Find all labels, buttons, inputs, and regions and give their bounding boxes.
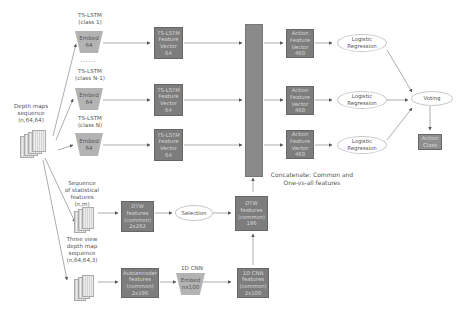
concatenate-label: Concatenate: Common and One-vs-all featu… xyxy=(262,171,362,187)
action-feature-vector-2: Action Feature Vector 460 xyxy=(286,86,314,115)
action-feature-vector-3: Action Feature Vector 460 xyxy=(286,130,314,159)
selection-node: Selection xyxy=(175,205,213,221)
ts-lstm-title-1: TS-LSTM (class 1) xyxy=(70,12,110,26)
logistic-regression-1: Logistic Regression xyxy=(337,34,387,52)
concatenate-bar xyxy=(245,24,263,177)
action-feature-vector-1: Action Feature Vector 460 xyxy=(286,29,314,58)
depth-maps-label: Depth maps sequence (n,64,64) xyxy=(8,103,54,124)
dtw-features-common: DTW features (common) 2x292 xyxy=(121,201,154,232)
three-view-stack-icon xyxy=(74,273,100,301)
cnn-title: 1D CNN xyxy=(176,265,208,272)
ts-lstm-feature-vector-1: TS-LSTM Feature Vector 64 xyxy=(154,27,183,59)
cnn-features-common: 1D CNN features (common) 2x100 xyxy=(237,268,269,298)
ellipsis: ...... xyxy=(80,56,96,64)
statistical-features-label: Sequence of statistical features (n,m) xyxy=(62,180,102,208)
ts-lstm-feature-vector-3: TS-LSTM Feature Vector 64 xyxy=(154,129,183,161)
logistic-regression-2: Logistic Regression xyxy=(337,91,387,109)
connector-arrows xyxy=(0,0,469,311)
logistic-regression-3: Logistic Regression xyxy=(337,136,387,154)
ts-lstm-title-3: TS-LSTM (class N) xyxy=(70,115,110,129)
ts-lstm-feature-vector-2: TS-LSTM Feature Vector 64 xyxy=(154,84,183,116)
statistical-stack-icon xyxy=(74,205,100,233)
depth-map-stack-icon xyxy=(20,130,50,160)
voting-node: Voting xyxy=(411,91,453,106)
action-class-output: Action Class xyxy=(418,134,442,150)
ts-lstm-title-2: TS-LSTM (class N-1) xyxy=(70,68,110,82)
autoencoder-features: Autoencoder features (common) 2x196 xyxy=(121,268,159,298)
three-view-label: Three view depth map sequence (n,64,64,3… xyxy=(62,236,102,264)
dtw-features-selected: DTW features (common) 196 xyxy=(235,196,268,231)
